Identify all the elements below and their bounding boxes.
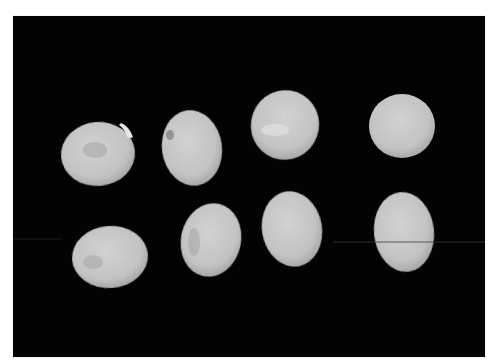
- seed-7: [256, 186, 328, 271]
- seeds-group: [58, 80, 438, 290]
- seed-2: [157, 106, 227, 190]
- seed-5-mottle: [83, 255, 103, 269]
- bottom-row: [70, 186, 438, 290]
- seed-6: [174, 198, 248, 283]
- seed-5: [70, 223, 150, 290]
- seed-8: [370, 189, 438, 275]
- seed-canvas: [13, 16, 485, 357]
- seed-2-mottle: [166, 130, 174, 140]
- seed-4: [369, 94, 435, 158]
- seed-1-mottle: [83, 142, 107, 158]
- seed-6-mottle: [188, 228, 200, 256]
- seed-3: [241, 80, 329, 169]
- seed-3-highlight: [261, 124, 289, 136]
- seed-photograph: [13, 16, 485, 357]
- top-row: [58, 80, 435, 189]
